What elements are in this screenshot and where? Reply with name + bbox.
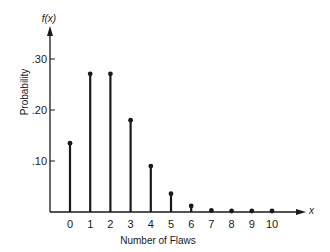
stem-2 (108, 71, 113, 212)
x-tick-label: 2 (107, 218, 113, 230)
axes (47, 26, 306, 215)
x-tick-label: 1 (87, 218, 93, 230)
x-tick-label: 10 (266, 218, 278, 230)
x-tick-label: 5 (168, 218, 174, 230)
y-tick-label: .10 (32, 155, 47, 167)
y-axis-symbol: f(x) (42, 13, 56, 24)
x-tick-label: 0 (67, 218, 73, 230)
y-tick-label: .20 (32, 104, 47, 116)
x-axis-arrow-icon (296, 209, 306, 215)
x-tick-label: 8 (229, 218, 235, 230)
stem-dot-icon (209, 208, 214, 213)
stem-dot-icon (249, 209, 254, 214)
stem-1 (88, 71, 93, 212)
x-tick-label: 9 (249, 218, 255, 230)
x-tick-label: 4 (148, 218, 154, 230)
stem-dot-icon (229, 209, 234, 214)
stem-chart: Probability f(x) x Number of Flaws .10.2… (0, 0, 330, 252)
x-tick-label: 7 (208, 218, 214, 230)
stem-dot-icon (128, 118, 133, 123)
y-axis-label: Probability (19, 69, 30, 116)
stem-10 (270, 209, 275, 214)
stem-4 (148, 164, 153, 212)
stem-9 (249, 209, 254, 214)
stem-dot-icon (108, 71, 113, 76)
stem-0 (68, 141, 73, 212)
x-tick-label: 6 (188, 218, 194, 230)
y-axis-arrow-icon (47, 26, 53, 36)
stem-6 (189, 203, 194, 212)
x-tick-labels: 012345678910 (67, 218, 278, 230)
y-tick-label: .30 (32, 53, 47, 65)
x-tick-label: 3 (128, 218, 134, 230)
stem-dot-icon (148, 164, 153, 169)
stem-3 (128, 118, 133, 212)
y-ticks: .10.20.30 (32, 53, 55, 167)
x-axis-symbol: x (308, 205, 315, 216)
stem-8 (229, 209, 234, 214)
stem-5 (169, 191, 174, 212)
stem-dot-icon (88, 71, 93, 76)
stem-7 (209, 208, 214, 213)
stem-dot-icon (68, 141, 73, 146)
stem-dot-icon (270, 209, 275, 214)
stem-dot-icon (189, 203, 194, 208)
stem-dot-icon (169, 191, 174, 196)
stems (68, 71, 275, 213)
x-axis-label: Number of Flaws (120, 235, 196, 246)
